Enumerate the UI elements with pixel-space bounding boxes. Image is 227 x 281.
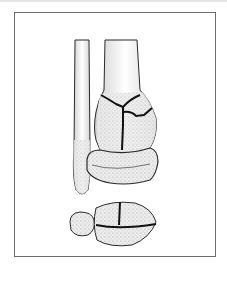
axial-fragments bbox=[70, 202, 156, 246]
talus bbox=[87, 148, 158, 184]
fracture-illustration bbox=[0, 0, 227, 281]
